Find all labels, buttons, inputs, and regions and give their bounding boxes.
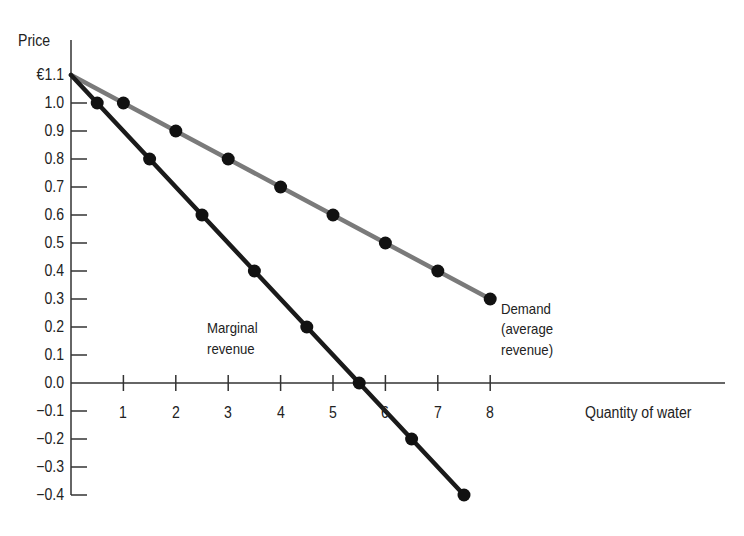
demand-point	[431, 265, 444, 278]
demand-point	[327, 209, 340, 222]
chart-plot-area	[0, 0, 744, 536]
x-tick-label: 3	[219, 404, 237, 422]
demand-point	[379, 237, 392, 250]
y-tick-label: 0.0	[16, 374, 64, 392]
x-tick-label: 1	[115, 404, 133, 422]
mr-label-line2: revenue	[207, 340, 255, 357]
demand-label-line2: (average	[501, 320, 553, 337]
marginal-revenue-point	[143, 153, 156, 166]
marginal-revenue-point	[300, 321, 313, 334]
demand-point	[169, 125, 182, 138]
y-tick-label: −0.2	[16, 430, 64, 448]
demand-label-line1: Demand	[501, 300, 551, 317]
x-tick-label: 8	[481, 404, 499, 422]
y-tick-label: −0.1	[16, 402, 64, 420]
y-tick-label: 1.0	[16, 94, 64, 112]
y-tick-label: 0.6	[16, 206, 64, 224]
marginal-revenue-point	[248, 265, 261, 278]
demand-point	[484, 293, 497, 306]
marginal-revenue-point	[458, 489, 471, 502]
marginal-revenue-point	[405, 433, 418, 446]
demand-point	[117, 97, 130, 110]
x-tick-label: 7	[429, 404, 447, 422]
y-tick-label: €1.1	[16, 66, 64, 84]
marginal-revenue-point	[91, 97, 104, 110]
x-tick-label: 2	[167, 404, 185, 422]
x-tick-label: 4	[272, 404, 290, 422]
marginal-revenue-line	[71, 75, 464, 495]
x-tick-label: 6	[377, 404, 395, 422]
y-tick-label: 0.4	[16, 262, 64, 280]
marginal-revenue-point	[196, 209, 209, 222]
demand-label-line3: revenue)	[501, 341, 553, 358]
y-tick-label: 0.9	[16, 122, 64, 140]
x-axis-title: Quantity of water	[585, 404, 691, 421]
demand-point	[222, 153, 235, 166]
y-tick-label: −0.3	[16, 458, 64, 476]
y-axis-title: Price	[18, 32, 50, 49]
marginal-revenue-point	[353, 377, 366, 390]
y-tick-label: −0.4	[16, 486, 64, 504]
mr-label-line1: Marginal	[207, 319, 258, 336]
y-tick-label: 0.3	[16, 290, 64, 308]
y-tick-label: 0.1	[16, 346, 64, 364]
y-tick-label: 0.5	[16, 234, 64, 252]
y-tick-label: 0.8	[16, 150, 64, 168]
y-tick-label: 0.2	[16, 318, 64, 336]
demand-point	[274, 181, 287, 194]
x-tick-label: 5	[324, 404, 342, 422]
y-tick-label: 0.7	[16, 178, 64, 196]
